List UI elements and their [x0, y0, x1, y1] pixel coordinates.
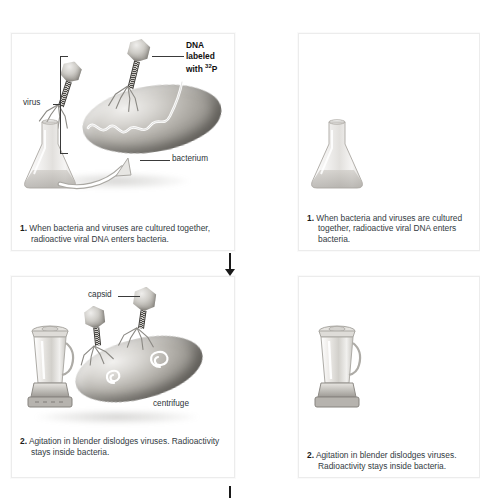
panel-step-2-illustration: capsid centrifuge	[12, 277, 234, 437]
centrifuge-label: centrifuge	[153, 399, 189, 409]
panel-step-1-illustration: virus DNA labeled with 32P bacterium	[12, 34, 234, 194]
arrow-head	[225, 269, 235, 276]
dna-label-line3: with	[186, 64, 205, 74]
panel-step-1-repeat-number: 1.	[307, 213, 314, 223]
virus-leader-line	[53, 104, 61, 105]
panel-step-1-repeat-caption-text: When bacteria and viruses are cultured t…	[316, 213, 462, 244]
capsid-label: capsid	[88, 290, 112, 300]
dna-label-line1: DNA	[186, 40, 204, 50]
panel-step-1-caption-text: When bacteria and viruses are cultured t…	[29, 223, 210, 243]
panel-step-2-caption: 2. Agitation in blender dislodges viruse…	[20, 436, 228, 457]
panel-step-1-repeat: 1. When bacteria and viruses are culture…	[298, 33, 480, 251]
panel-step-2-caption-text: Agitation in blender dislodges viruses. …	[29, 436, 219, 456]
blender-illustration	[309, 321, 365, 413]
phage-capsid-head	[82, 305, 107, 330]
phage-capsid-head	[131, 285, 159, 313]
virus-bracket	[60, 56, 68, 154]
panel-step-2-repeat-illustration	[299, 277, 479, 437]
panel-step-1-repeat-caption: 1. When bacteria and viruses are culture…	[307, 213, 473, 244]
panel-step-2-repeat-caption-text: Agitation in blender dislodges viruses. …	[316, 450, 457, 470]
phage-capsid-head	[124, 36, 153, 65]
curved-arrow-illustration	[56, 146, 138, 190]
panel-step-2-repeat: 2. Agitation in blender dislodges viruse…	[298, 276, 480, 478]
flow-arrow-step-1-to-2	[224, 253, 236, 277]
flow-arrow-step-2-to-3	[224, 486, 236, 498]
panel-step-1-number: 1.	[20, 223, 27, 233]
arrow-shaft	[229, 253, 231, 270]
arrow-shaft	[229, 486, 231, 498]
bacterium-label: bacterium	[172, 154, 208, 164]
phage-tail-fibers	[78, 342, 118, 368]
panel-step-2-repeat-number: 2.	[307, 450, 314, 460]
dna-leader-line	[152, 56, 184, 57]
panel-step-2-number: 2.	[20, 436, 27, 446]
panel-step-2: capsid centrifuge 2. Agitation in blende…	[11, 276, 235, 478]
virus-label: virus	[23, 98, 40, 108]
dna-label: DNA labeled with 32P	[186, 40, 217, 74]
panel-step-1-caption: 1. When bacteria and viruses are culture…	[20, 223, 228, 244]
bacterium-leader-line	[140, 160, 170, 161]
panel-step-2-repeat-caption: 2. Agitation in blender dislodges viruse…	[307, 450, 473, 471]
panel-step-1-repeat-illustration	[299, 34, 479, 194]
blender-illustration	[22, 321, 78, 413]
dna-label-line2: labeled	[186, 51, 215, 61]
dna-label-element: P	[212, 64, 218, 74]
erlenmeyer-flask-illustration	[307, 118, 369, 190]
panel-step-1: virus DNA labeled with 32P bacterium 1. …	[11, 33, 235, 251]
dna-label-isotope-superscript: 32	[205, 63, 212, 69]
capsid-leader-line	[118, 296, 140, 297]
